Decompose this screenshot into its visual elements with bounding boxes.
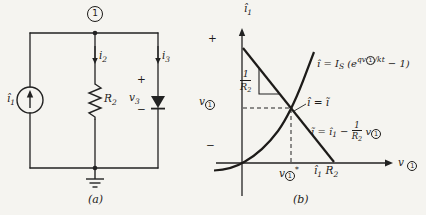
x-axis-arrow — [385, 160, 393, 167]
operating-point-label: î = ĩ — [307, 96, 329, 109]
current-i2-label: i2 — [99, 49, 107, 64]
diode-voltage-minus: − — [137, 103, 146, 116]
diode-curve — [214, 52, 314, 171]
operating-point-leader — [294, 104, 306, 111]
circled-1: 1 — [205, 100, 215, 110]
source-current-label: î1 — [7, 92, 15, 107]
fraction-1-over-r2: 1R2 — [352, 120, 363, 145]
circled-1: 1 — [285, 171, 295, 181]
x-intercept-label: î1 R2 — [314, 164, 338, 179]
current3-arrow-head — [155, 58, 161, 64]
x-axis-label: v 1 — [398, 156, 417, 171]
top-node-dot — [93, 31, 98, 36]
node-1-badge: 1 — [87, 6, 103, 22]
node-voltage-plus: + — [208, 32, 217, 45]
current2-arrow-head — [92, 58, 98, 64]
fraction-1-over-r2: 1R2 — [240, 68, 251, 96]
circled-1: 1 — [407, 161, 417, 171]
figure-diode-circuit-and-loadline: 1 î1 i2 i3 R2 + v3 − + v1 − (a) î1 v 1 î… — [0, 0, 426, 215]
node-voltage-label: v1 — [199, 95, 215, 110]
circled-1: 1 — [366, 56, 375, 65]
node-voltage-minus: − — [206, 139, 215, 152]
current-source-arrow-head — [27, 90, 33, 98]
panel-a-caption: (a) — [88, 193, 103, 206]
slope-label: 1R2 — [240, 68, 251, 96]
resistor — [89, 84, 101, 120]
diode-triangle — [151, 96, 165, 108]
x-value-label: v1* — [279, 165, 299, 181]
y-axis-arrow — [239, 28, 245, 36]
y-axis-label: î1 — [244, 2, 252, 17]
resistor-r2-label: R2 — [104, 92, 117, 107]
circled-1: 1 — [371, 129, 381, 139]
panel-b-caption: (b) — [293, 193, 309, 206]
current-i3-label: i3 — [162, 49, 170, 64]
diode-equation: î = IS (eqv1/kt − 1) — [317, 55, 410, 71]
ground-symbol — [86, 168, 104, 187]
exponent: qv1/kt — [357, 55, 385, 64]
load-line-equation: ĩ = î1 − 1R2 v1 — [311, 120, 381, 145]
diode-voltage-plus: + — [137, 73, 146, 86]
